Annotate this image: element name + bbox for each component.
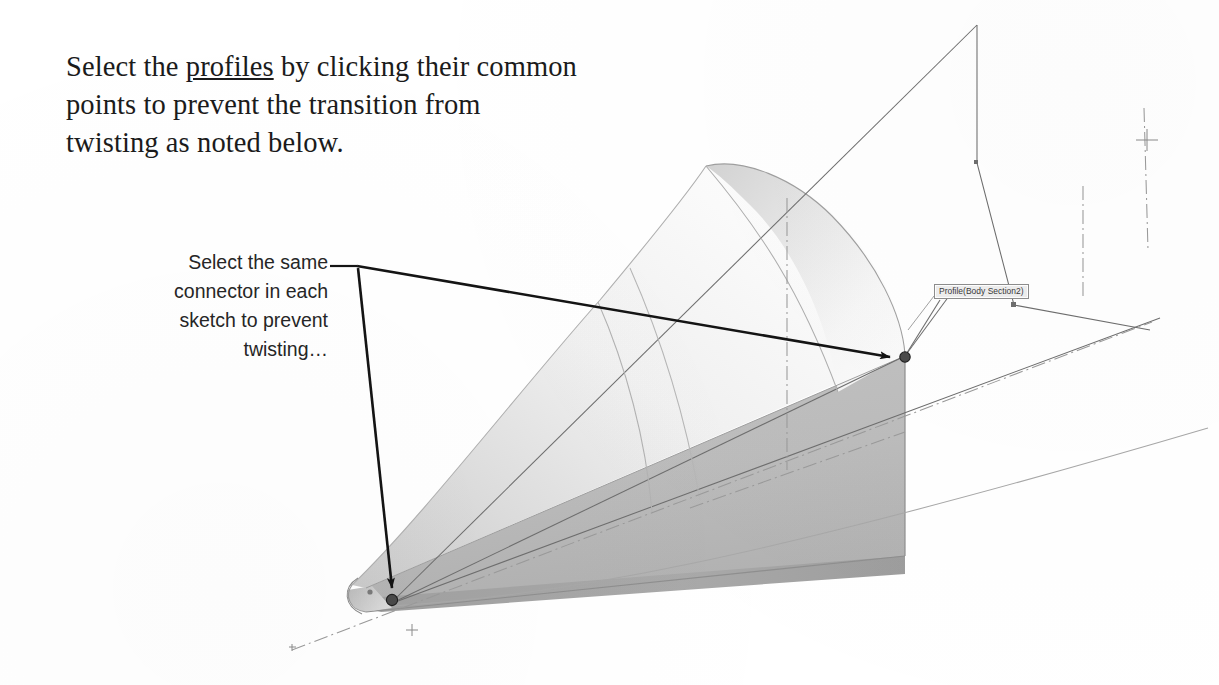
instruction-line1-before: Select the (66, 51, 186, 82)
connector-point-near-secondary (367, 589, 372, 594)
callout-line-2: connector in each (96, 277, 328, 306)
tooltip-leader-line (908, 296, 934, 330)
profile-tooltip[interactable]: Profile(Body Section2) (934, 284, 1029, 299)
callout-line-3: sketch to prevent (96, 306, 328, 335)
instruction-profiles-link[interactable]: profiles (186, 51, 274, 82)
loft-solid-body[interactable] (348, 164, 905, 612)
instruction-line2: points to prevent the transition from (66, 89, 481, 120)
callout-line-1: Select the same (96, 248, 328, 277)
origin-cross-right (1136, 129, 1158, 151)
connector-point-far (900, 352, 910, 362)
origin-cross-bottom (406, 624, 418, 636)
sketch-vertex-a (974, 160, 978, 164)
sketch-connector-leader-b (905, 300, 940, 356)
centerline-endpoint-marker (289, 644, 296, 651)
arrow-to-near-connector (358, 268, 392, 588)
sketch-vertex-b (1011, 302, 1016, 307)
slide-canvas: Select the profiles by clicking their co… (0, 0, 1219, 685)
connector-point-near (386, 594, 397, 605)
callout-line-4: twisting… (96, 335, 328, 364)
instruction-line3: twisting as noted below. (66, 127, 344, 158)
twisting-callout: Select the same connector in each sketch… (96, 248, 328, 364)
instruction-paragraph: Select the profiles by clicking their co… (66, 48, 706, 162)
instruction-line1-after: by clicking their common (274, 51, 577, 82)
